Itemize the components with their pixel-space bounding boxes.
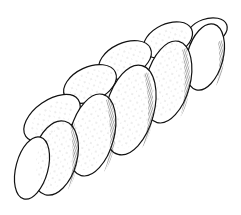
braided-bread-drawing: [0, 0, 241, 215]
